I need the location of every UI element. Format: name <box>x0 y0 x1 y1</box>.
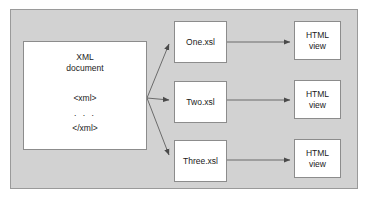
connector-xml-to-one <box>147 44 169 98</box>
connector-xml-to-three <box>147 98 169 155</box>
node-html-view-three-line1: HTML <box>306 148 329 159</box>
node-html-view-two: HTML view <box>294 80 341 119</box>
node-html-view-one-line1: HTML <box>306 30 329 41</box>
node-stylesheet-one-label: One.xsl <box>186 37 215 47</box>
node-html-view-one-line2: view <box>309 41 326 52</box>
xml-document-code: <xml> . . . </xml> <box>72 91 98 136</box>
xml-document-title-line2: document <box>66 63 103 74</box>
diagram-root: XML document <xml> . . . </xml> One.xsl … <box>0 0 365 198</box>
node-html-view-three: HTML view <box>294 139 341 178</box>
node-html-view-two-line2: view <box>309 100 326 111</box>
node-html-view-one: HTML view <box>294 21 341 60</box>
xml-code-ellipsis: . . . <box>72 106 98 121</box>
node-stylesheet-two-label: Two.xsl <box>186 97 214 107</box>
xml-code-open-tag: <xml> <box>72 91 98 106</box>
connector-xml-to-two <box>147 98 169 100</box>
node-stylesheet-two: Two.xsl <box>174 81 227 123</box>
node-stylesheet-three-label: Three.xsl <box>183 156 218 166</box>
node-html-view-three-line2: view <box>309 159 326 170</box>
xml-document-title-line1: XML <box>66 52 103 63</box>
xml-code-close-tag: </xml> <box>72 121 98 136</box>
xml-document-title: XML document <box>66 52 103 74</box>
node-stylesheet-three: Three.xsl <box>174 140 227 182</box>
node-html-view-two-line1: HTML <box>306 89 329 100</box>
node-xml-document: XML document <xml> . . . </xml> <box>23 41 147 150</box>
node-stylesheet-one: One.xsl <box>174 21 227 63</box>
